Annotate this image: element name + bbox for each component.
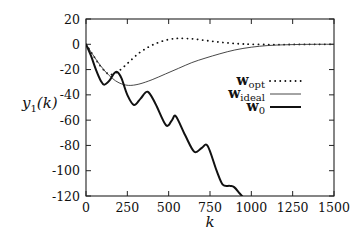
y-tick-label: -20: [60, 62, 80, 77]
x-tick-label: 250: [115, 200, 139, 215]
series-layer: [86, 38, 334, 197]
y-tick-label: -120: [52, 189, 80, 204]
y-tick-label: -40: [60, 87, 80, 102]
series-line-w-ideal: [86, 44, 334, 85]
x-tick-label: 1250: [277, 200, 309, 215]
series-line-w-0: [86, 44, 243, 197]
line-chart: 0250500750100012501500200-20-40-60-80-10…: [0, 0, 364, 239]
y-tick-label: -80: [60, 138, 80, 153]
y-tick-label: 0: [72, 37, 80, 52]
x-tick-label: 1500: [318, 200, 350, 215]
x-tick-label: 1000: [235, 200, 267, 215]
legend: woptwidealw0: [227, 72, 301, 116]
x-tick-label: 500: [157, 200, 181, 215]
y-tick-label: 20: [64, 12, 80, 27]
y-axis-label-rest: (k): [37, 94, 58, 112]
y-tick-label: -100: [52, 163, 80, 178]
y-axis-label: y1(k): [21, 94, 58, 114]
x-tick-label: 0: [82, 200, 90, 215]
plot-area: 0250500750100012501500200-20-40-60-80-10…: [52, 12, 350, 216]
x-axis-label: k: [205, 213, 214, 231]
y-tick-label: -60: [60, 113, 80, 128]
